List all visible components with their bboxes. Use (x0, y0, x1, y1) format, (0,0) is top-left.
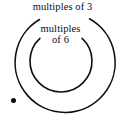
inner-set-label: multiples of 6 (0, 24, 121, 46)
outer-set-label: multiples of 3 (0, 2, 125, 13)
venn-diagram-canvas (0, 0, 125, 118)
inner-set-circle-multiples-of-6 (30, 38, 92, 92)
inner-set-label-line1: multiples (41, 23, 81, 34)
set-diagram-figure: multiples of 3 multiples of 6 (0, 0, 125, 118)
inner-set-label-line2: of 6 (0, 35, 121, 46)
element-point-outside-icon (11, 98, 16, 103)
